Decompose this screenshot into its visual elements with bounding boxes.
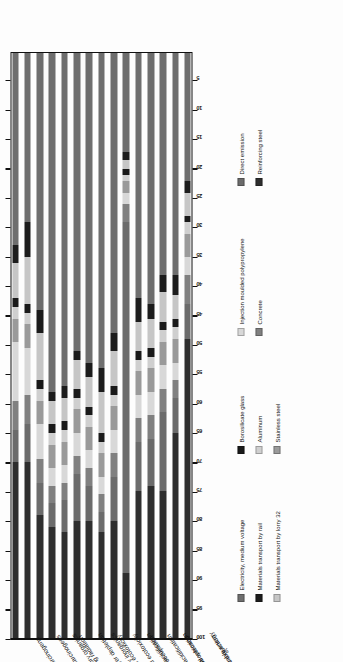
- bar-segment: [122, 175, 129, 181]
- tick-mark: [5, 80, 10, 81]
- bar-segment: [85, 52, 92, 363]
- plot-area: [10, 52, 192, 640]
- bar-segment: [61, 465, 68, 483]
- bar-segment: [36, 52, 43, 310]
- chart-screenshot: 1009590858075706560555045403530252015105…: [0, 0, 343, 662]
- bar-segment: [98, 512, 105, 533]
- bar-segment: [110, 351, 117, 386]
- bar-segment: [48, 527, 55, 638]
- bar-segment: [61, 52, 68, 386]
- bar-segment: [12, 462, 19, 638]
- bar-segment: [122, 204, 129, 222]
- bar-row: [122, 52, 129, 638]
- bar-segment: [110, 477, 117, 521]
- x-tick-label: 65: [196, 428, 202, 434]
- tick-mark: [5, 521, 10, 522]
- bar-segment: [85, 521, 92, 638]
- legend-column: Electricity, medium voltageMaterials tra…: [236, 462, 336, 602]
- tick-mark: [5, 286, 10, 287]
- x-tick-label: 40: [196, 281, 202, 287]
- bar-segment: [122, 181, 129, 193]
- legend-column: Direct emissionReinforcing steel: [236, 46, 336, 186]
- bar-segment: [73, 389, 80, 398]
- bar-row: [24, 52, 31, 638]
- bar-segment: [98, 392, 105, 433]
- bar-row: [184, 52, 191, 638]
- bar-segment: [61, 421, 68, 430]
- bar-segment: [12, 430, 19, 462]
- bar-segment: [98, 433, 105, 442]
- tick-mark: [5, 198, 10, 199]
- bar-row: [12, 52, 19, 638]
- legend-item[interactable]: Concrete: [254, 196, 263, 336]
- bar-segment: [73, 521, 80, 638]
- bar-segment: [159, 365, 166, 388]
- legend-label: Stainless steel: [274, 404, 280, 443]
- bar-segment: [184, 222, 191, 234]
- bar-row: [73, 52, 80, 638]
- bar-row: [98, 52, 105, 638]
- bar-segment: [135, 52, 142, 298]
- bar-segment: [36, 380, 43, 389]
- legend-swatch: [237, 447, 245, 455]
- x-tick-label: 95: [196, 605, 202, 611]
- legend-item[interactable]: Reinforcing steel: [254, 46, 263, 186]
- bar-segment: [110, 430, 117, 453]
- bar-segment: [85, 486, 92, 521]
- bar-segment: [172, 327, 179, 339]
- bar-row: [36, 52, 43, 638]
- bar-segment: [73, 52, 80, 351]
- bar-segment: [85, 468, 92, 486]
- bar-segment: [61, 430, 68, 442]
- bar-segment: [24, 395, 31, 424]
- x-tick-label: 5: [196, 75, 199, 81]
- bar-segment: [110, 52, 117, 333]
- x-tick-label: 20: [196, 164, 202, 170]
- bar-segment: [184, 234, 191, 257]
- bar-segment: [172, 433, 179, 638]
- bar-segment: [36, 424, 43, 459]
- bar-segment: [147, 52, 154, 304]
- bar-segment: [135, 298, 142, 321]
- legend-item[interactable]: Direct emission: [236, 46, 245, 186]
- tick-mark: [5, 315, 10, 316]
- bar-segment: [85, 363, 92, 378]
- bar-segment: [73, 433, 80, 456]
- bar-segment: [135, 371, 142, 394]
- bar-segment: [36, 389, 43, 401]
- x-tick-label: 35: [196, 252, 202, 258]
- stacked-bar-figure: 1009590858075706560555045403530252015105…: [0, 0, 343, 662]
- x-tick-label: 50: [196, 340, 202, 346]
- bar-segment: [48, 468, 55, 486]
- legend-label: Electricity, medium voltage: [238, 520, 244, 591]
- legend-label: Materials transport by rail: [256, 523, 262, 590]
- bar-segment: [147, 415, 154, 438]
- bar-segment: [184, 193, 191, 216]
- bar-segment: [110, 395, 117, 407]
- bar-segment: [159, 389, 166, 412]
- bar-segment: [12, 342, 19, 401]
- bar-segment: [12, 263, 19, 298]
- legend-item[interactable]: Injection moulded polypropylene: [236, 196, 245, 336]
- bar-segment: [12, 245, 19, 263]
- bar-segment: [24, 424, 31, 462]
- bar-row: [172, 52, 179, 638]
- legend-swatch: [255, 329, 263, 337]
- legend-item[interactable]: Materials transport by lorry 32: [272, 462, 281, 602]
- category-label: Carcinogens: [34, 636, 59, 662]
- bar-row: [85, 52, 92, 638]
- x-tick-label: 60: [196, 399, 202, 405]
- tick-mark: [5, 257, 10, 258]
- bar-segment: [172, 319, 179, 328]
- bar-segment: [172, 52, 179, 275]
- legend-label: Materials transport by lorry 32: [274, 511, 280, 590]
- bar-segment: [172, 363, 179, 381]
- legend-swatch: [237, 595, 245, 603]
- legend-label: Injection moulded polypropylene: [238, 238, 244, 324]
- tick-mark: [5, 374, 10, 375]
- bar-segment: [122, 152, 129, 161]
- tick-mark: [5, 609, 10, 610]
- bar-segment: [110, 386, 117, 395]
- legend-item[interactable]: Electricity, medium voltage: [236, 462, 245, 602]
- legend-item[interactable]: Materials transport by rail: [254, 462, 263, 602]
